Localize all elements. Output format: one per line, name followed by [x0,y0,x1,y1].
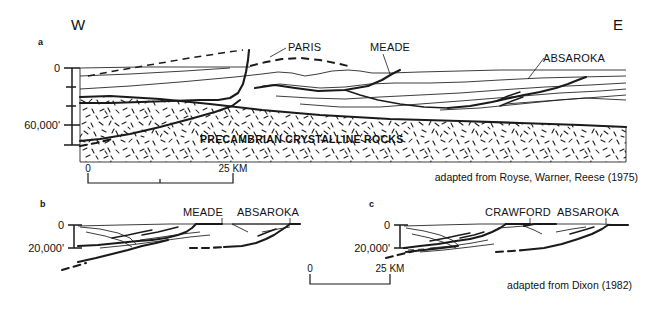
panel-a-axis-bottom-label: 60,000' [24,119,60,131]
panel-b-label-absaroka: ABSAROKA [237,206,300,218]
panel-a-credit: adapted from Royse, Warner, Reese (1975) [435,171,638,183]
geologic-cross-section-figure: W E a PRECAMBRIAN CRYSTALLINE ROCKS [0,0,649,314]
panel-c-label-absaroka: ABSAROKA [557,206,620,218]
panel-a-scale-zero: 0 [85,163,91,174]
compass-west-label: W [71,16,86,33]
panel-a-scale-max: 25 KM [219,163,248,174]
panel-c-credit: adapted from Dixon (1982) [507,279,632,291]
panel-c-scale-zero: 0 [307,263,313,274]
panel-b-absaroka-dashed [190,247,224,248]
panel-c-scale-max: 25 KM [376,263,405,274]
panel-a-label-absaroka: ABSAROKA [543,52,606,64]
panel-c-label-crawford: CRAWFORD [485,206,551,218]
panel-a-label-meade: MEADE [370,41,410,53]
precambrian-unit-label: PRECAMBRIAN CRYSTALLINE ROCKS [200,133,404,145]
panel-b-label-meade: MEADE [183,206,223,218]
panel-b-axis-bottom-label: 20,000' [28,242,64,254]
panel-b-letter: b [40,199,46,209]
panel-a-label-paris: PARIS [288,41,321,53]
panel-b-axis-top-label: 0 [58,219,64,231]
panel-c-letter: c [369,199,374,209]
compass-east-label: E [613,16,623,33]
panel-c-axis-bottom-label: 20,000' [354,242,390,254]
panel-a-axis-top-label: 0 [54,62,60,74]
panel-c-axis-top-label: 0 [384,219,390,231]
